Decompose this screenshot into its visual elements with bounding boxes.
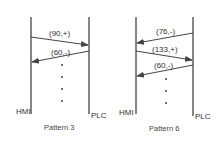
- diagram-pattern-6: (76,-) (133,+) (60,-) HMI PLC Pattern 6: [119, 17, 211, 133]
- message-label-1: (76,-): [156, 27, 175, 36]
- continuation-dots: [165, 78, 167, 104]
- sequence-diagrams: (90,+) (60,-) HMI PLC Pattern 3 (76,-) (…: [0, 0, 222, 167]
- hmi-label: HMI: [119, 108, 134, 117]
- message-label-2: (60,-): [51, 48, 70, 57]
- plc-label: PLC: [91, 111, 107, 120]
- message-label-1: (90,+): [49, 29, 70, 38]
- plc-label: PLC: [195, 112, 211, 121]
- message-label-2: (133,+): [152, 45, 178, 54]
- diagram-pattern-3: (90,+) (60,-) HMI PLC Pattern 3: [16, 17, 107, 132]
- continuation-dots: [61, 64, 63, 102]
- caption: Pattern 6: [149, 124, 179, 133]
- caption: Pattern 3: [44, 123, 74, 132]
- message-label-3: (60,-): [154, 61, 173, 70]
- hmi-label: HMI: [16, 107, 31, 116]
- message-arrow-1: [31, 37, 88, 45]
